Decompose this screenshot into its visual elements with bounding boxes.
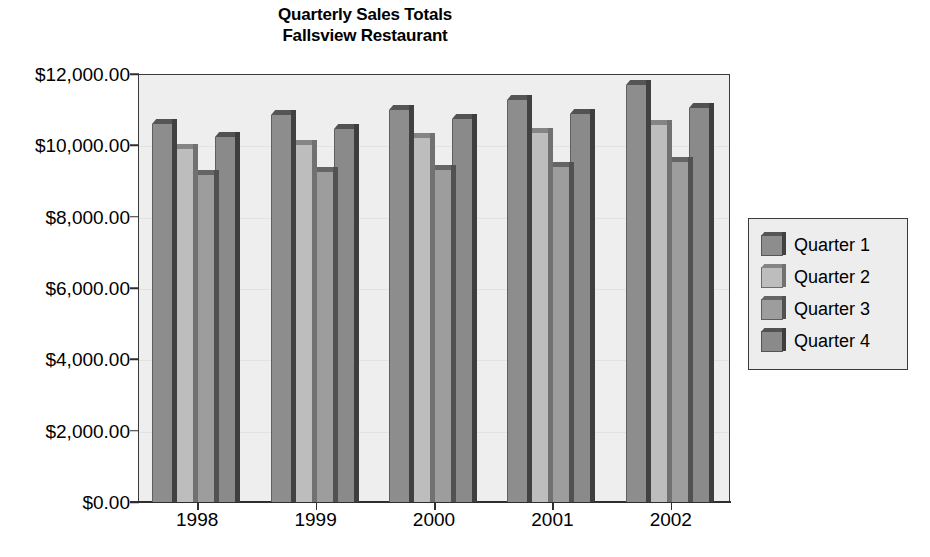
bar xyxy=(271,115,292,502)
y-axis-tick-label: $8,000.00 xyxy=(45,207,130,226)
chart-title: Quarterly Sales Totals Fallsview Restaur… xyxy=(0,4,730,46)
y-axis-tick xyxy=(130,73,139,75)
y-axis-tick-label: $6,000.00 xyxy=(45,279,130,298)
bars-layer xyxy=(138,74,730,502)
legend-item[interactable]: Quarter 2 xyxy=(761,261,907,293)
y-axis-tick xyxy=(130,216,139,218)
y-axis-tick xyxy=(130,430,139,432)
y-axis-tick-label: $2,000.00 xyxy=(45,421,130,440)
y-axis-tick-label: $0.00 xyxy=(82,493,130,512)
legend-swatch-side xyxy=(782,264,786,287)
bar-face xyxy=(508,100,527,502)
x-axis-tick xyxy=(316,502,318,510)
bar-side-face xyxy=(430,133,435,503)
bar-face xyxy=(272,115,291,502)
legend-swatch-side xyxy=(782,328,786,351)
bar-side-face xyxy=(333,167,338,502)
y-axis-tick xyxy=(130,501,139,503)
legend-label: Quarter 4 xyxy=(794,331,870,351)
bar-side-face xyxy=(590,109,595,502)
x-axis-tick xyxy=(197,502,199,510)
legend-item[interactable]: Quarter 1 xyxy=(761,229,907,261)
x-axis-tick xyxy=(671,502,673,510)
bar-side-face xyxy=(667,120,672,502)
legend-swatch xyxy=(761,235,783,256)
bar-side-face xyxy=(354,124,359,502)
legend-item[interactable]: Quarter 3 xyxy=(761,293,907,325)
chart-container: Quarterly Sales Totals Fallsview Restaur… xyxy=(0,0,930,557)
bar xyxy=(626,85,647,502)
bar-side-face xyxy=(569,162,574,502)
legend-swatch xyxy=(761,331,783,352)
x-axis-tick-label: 2000 xyxy=(413,509,455,531)
bar-side-face xyxy=(472,114,477,502)
bar-face xyxy=(390,110,409,502)
bar-side-face xyxy=(291,110,296,502)
legend-swatch-side xyxy=(782,296,786,319)
bar xyxy=(507,100,528,502)
legend-swatch xyxy=(761,267,783,288)
bar-side-face xyxy=(688,157,693,502)
bar-side-face xyxy=(235,132,240,502)
x-axis-tick-label: 1999 xyxy=(294,509,336,531)
legend-swatch xyxy=(761,299,783,320)
bar-face xyxy=(153,124,172,502)
bar-side-face xyxy=(548,128,553,502)
chart-title-line2: Fallsview Restaurant xyxy=(0,25,730,46)
x-axis-tick-label: 1998 xyxy=(176,509,218,531)
y-axis-tick-label: $12,000.00 xyxy=(35,65,130,84)
bar xyxy=(152,124,173,502)
bar-side-face xyxy=(409,105,414,502)
y-axis-tick-label: $4,000.00 xyxy=(45,350,130,369)
legend-item[interactable]: Quarter 4 xyxy=(761,325,907,357)
bar-side-face xyxy=(193,144,198,502)
y-axis-tick-label: $10,000.00 xyxy=(35,136,130,155)
bar-side-face xyxy=(527,95,532,502)
legend-swatch-side xyxy=(782,232,786,255)
y-axis: $0.00$2,000.00$4,000.00$6,000.00$8,000.0… xyxy=(8,74,130,502)
bar-side-face xyxy=(214,170,219,502)
bar-side-face xyxy=(709,103,714,502)
y-axis-tick xyxy=(130,145,139,147)
legend-label: Quarter 2 xyxy=(794,267,870,287)
bar-side-face xyxy=(451,165,456,502)
bar-side-face xyxy=(172,119,177,502)
chart-title-line1: Quarterly Sales Totals xyxy=(278,5,452,24)
x-axis-tick-label: 2002 xyxy=(650,509,692,531)
bar-side-face xyxy=(312,140,317,502)
legend-label: Quarter 1 xyxy=(794,235,870,255)
bar-side-face xyxy=(646,80,651,502)
legend-label: Quarter 3 xyxy=(794,299,870,319)
y-axis-tick xyxy=(130,359,139,361)
bar-face xyxy=(627,85,646,502)
bar xyxy=(389,110,410,502)
y-axis-tick xyxy=(130,287,139,289)
x-axis-tick-label: 2001 xyxy=(531,509,573,531)
x-axis-tick xyxy=(552,502,554,510)
chart-legend: Quarter 1Quarter 2Quarter 3Quarter 4 xyxy=(748,218,908,370)
x-axis-tick xyxy=(434,502,436,510)
